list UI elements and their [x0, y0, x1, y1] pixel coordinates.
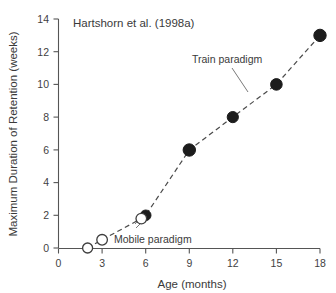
y-axis-ticks — [54, 19, 59, 248]
data-point-train-18mo — [314, 29, 326, 41]
y-tick-label-10: 10 — [37, 78, 49, 90]
retention-scatter-chart: 0 2 4 6 8 10 12 14 Maximum Duration of R… — [0, 0, 336, 293]
data-point-mobile-3mo — [97, 235, 108, 246]
chart-figure: 0 2 4 6 8 10 12 14 Maximum Duration of R… — [0, 0, 336, 293]
y-axis-tick-labels: 0 2 4 6 8 10 12 14 — [37, 13, 49, 254]
x-tick-label-3: 3 — [99, 257, 105, 269]
x-axis: 0 3 6 9 12 15 18 Age (months) — [56, 249, 326, 291]
data-point-train-12mo — [227, 112, 238, 123]
x-tick-label-0: 0 — [56, 257, 62, 269]
y-tick-label-12: 12 — [37, 46, 49, 58]
x-axis-tick-labels: 0 3 6 9 12 15 18 — [56, 257, 326, 269]
y-tick-label-6: 6 — [43, 144, 49, 156]
y-tick-label-4: 4 — [43, 176, 49, 188]
x-tick-label-18: 18 — [314, 257, 326, 269]
y-axis: 0 2 4 6 8 10 12 14 Maximum Duration of R… — [7, 13, 59, 254]
leader-path-train — [232, 68, 248, 92]
x-tick-label-12: 12 — [227, 257, 239, 269]
annotation-train-paradigm: Train paradigm — [192, 53, 262, 65]
y-tick-label-14: 14 — [37, 13, 49, 25]
data-point-train-15mo — [271, 79, 283, 91]
data-point-mobile-2mo — [83, 243, 93, 253]
y-axis-title: Maximum Duration of Retention (weeks) — [7, 31, 19, 236]
series-connector-line — [88, 35, 320, 248]
y-tick-label-2: 2 — [43, 209, 49, 221]
y-tick-label-8: 8 — [43, 111, 49, 123]
data-point-train-9mo — [183, 144, 195, 156]
plot-title: Hartshorn et al. (1998a) — [73, 17, 195, 29]
x-tick-label-15: 15 — [271, 257, 283, 269]
x-tick-label-6: 6 — [143, 257, 149, 269]
annotation-mobile-paradigm: Mobile paradigm — [114, 233, 192, 245]
x-axis-title: Age (months) — [157, 278, 226, 290]
x-axis-ticks — [59, 249, 321, 254]
x-tick-label-9: 9 — [186, 257, 192, 269]
data-point-mobile-5_7mo — [136, 213, 147, 224]
y-tick-label-0: 0 — [43, 242, 49, 254]
